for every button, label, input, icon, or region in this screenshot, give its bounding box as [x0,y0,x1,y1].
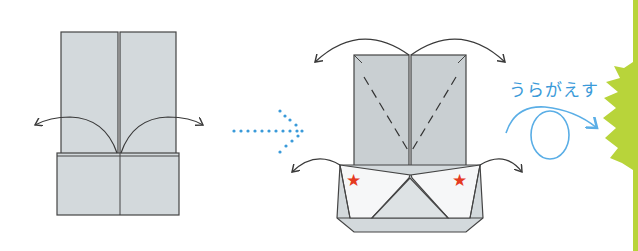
origami-diagram: ★ ★ [0,0,638,251]
step-1-figure [35,32,203,215]
green-page-edge [603,0,638,251]
base [57,153,179,215]
fold-arrow-bottom-left [292,159,340,172]
step-2-figure: ★ ★ [292,39,522,232]
star-marker-left: ★ [346,170,361,190]
flip-instruction-label: うらがえす [509,76,599,101]
fold-arrow-bottom-right [480,159,522,172]
dotted-arrow-icon [232,109,303,153]
right-flap [120,32,176,154]
star-marker-right: ★ [452,170,467,190]
left-flap [61,32,118,154]
flip-over-loop-icon [506,107,597,159]
